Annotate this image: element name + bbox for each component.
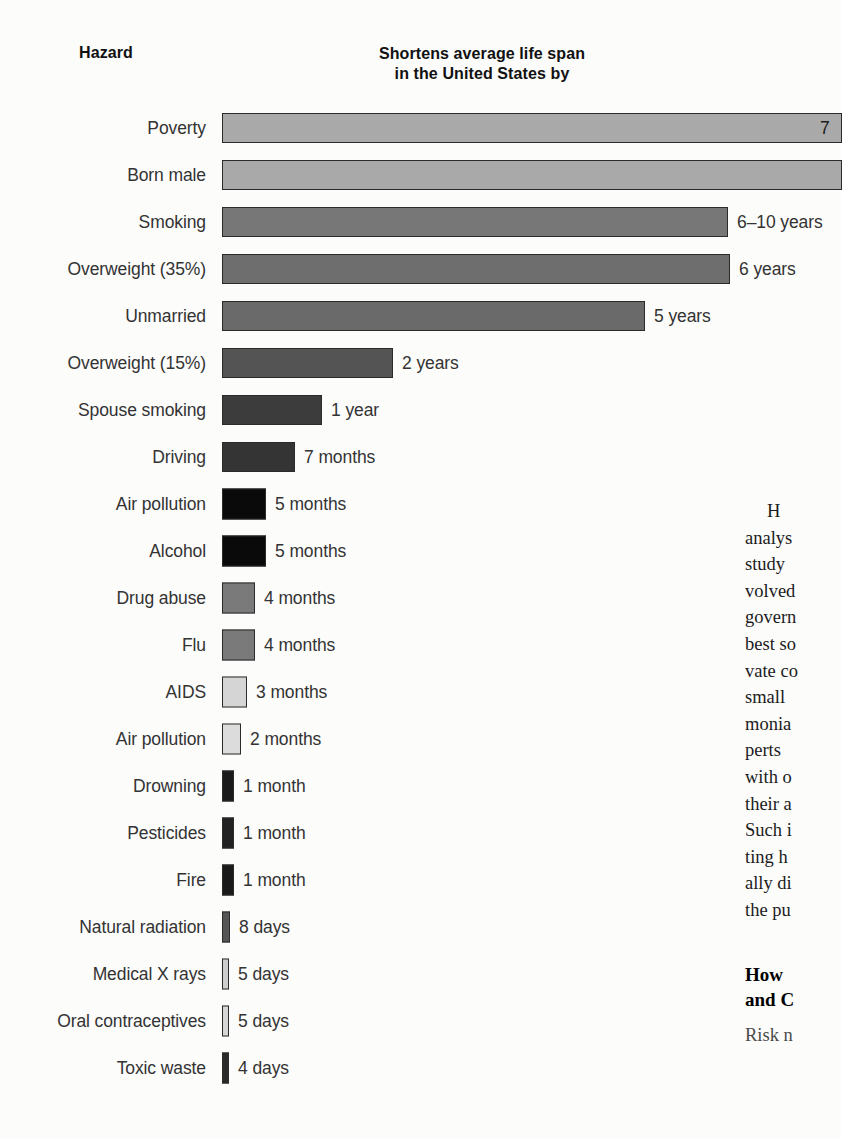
chart-row: Toxic waste4 days	[0, 1044, 841, 1091]
chart-row: AIDS3 months	[0, 668, 841, 715]
bar-value-label: 4 days	[238, 1057, 289, 1078]
hazard-bar	[222, 348, 393, 378]
chart-row: Air pollution2 months	[0, 715, 841, 762]
hazard-label: Drug abuse	[0, 587, 206, 608]
hazard-label: Natural radiation	[0, 916, 206, 937]
article-line: monia	[745, 711, 841, 738]
bar-value-label: 6–10 years	[737, 211, 823, 232]
bar-value-label: 2 months	[250, 728, 321, 749]
article-line: their a	[745, 791, 841, 818]
hazard-bar	[222, 582, 255, 613]
article-line: analys	[745, 525, 841, 552]
article-line: perts	[745, 737, 841, 764]
chart-row: Fire1 month	[0, 856, 841, 903]
hazard-bar	[222, 676, 247, 707]
hazard-label: Overweight (15%)	[0, 352, 206, 373]
bar-value-label: 5 days	[238, 1010, 289, 1031]
hazard-bar	[222, 864, 234, 895]
hazard-bar	[222, 723, 241, 754]
hazard-bar	[222, 442, 295, 472]
hazard-label: Smoking	[0, 211, 206, 232]
hazard-label: Drowning	[0, 775, 206, 796]
chart-row: Drowning1 month	[0, 762, 841, 809]
section-heading-line: and C	[745, 987, 841, 1012]
hazard-bar	[222, 113, 842, 143]
chart-row: Poverty7	[0, 104, 841, 151]
article-line: study	[745, 551, 841, 578]
hazard-label: Air pollution	[0, 493, 206, 514]
chart-row: Alcohol5 months	[0, 527, 841, 574]
bar-value-label: 4 months	[264, 587, 335, 608]
bar-value-label: 6 years	[739, 258, 796, 279]
article-line: with o	[745, 764, 841, 791]
hazard-label: Born male	[0, 164, 206, 185]
hazard-bar	[222, 1052, 229, 1083]
column-header-lifespan: Shortens average life span in the United…	[222, 44, 742, 84]
article-line: Such i	[745, 817, 841, 844]
bar-value-label: 1 month	[243, 775, 306, 796]
hazard-bar	[222, 1005, 229, 1036]
hazard-label: Poverty	[0, 117, 206, 138]
bar-value-label: 1 year	[331, 399, 379, 420]
article-text-column: Hanalysstudyvolvedgovernbest sovate cosm…	[745, 498, 841, 1048]
article-section-heading: Howand C	[745, 962, 841, 1012]
article-section-body: Risk n	[745, 1022, 841, 1049]
hazard-bar	[222, 629, 255, 660]
hazard-label: Toxic waste	[0, 1057, 206, 1078]
hazard-bar	[222, 207, 728, 237]
article-line: small	[745, 684, 841, 711]
bar-value-label: 3 months	[256, 681, 327, 702]
hazard-bar	[222, 535, 266, 566]
hazard-label: AIDS	[0, 681, 206, 702]
bar-value-label: 1 month	[243, 822, 306, 843]
chart-row: Medical X rays5 days	[0, 950, 841, 997]
chart-row: Born male	[0, 151, 841, 198]
hazard-label: Driving	[0, 446, 206, 467]
article-line: volved	[745, 578, 841, 605]
bar-value-label: 4 months	[264, 634, 335, 655]
hazard-label: Spouse smoking	[0, 399, 206, 420]
bar-value-label: 5 years	[654, 305, 711, 326]
hazard-bar	[222, 958, 229, 989]
chart-row: Overweight (35%)6 years	[0, 245, 841, 292]
article-line: govern	[745, 604, 841, 631]
hazard-label: Unmarried	[0, 305, 206, 326]
hazard-label: Medical X rays	[0, 963, 206, 984]
hazard-bar	[222, 395, 322, 425]
hazard-bar	[222, 301, 645, 331]
chart-row: Driving7 months	[0, 433, 841, 480]
bar-value-label: 5 months	[275, 493, 346, 514]
chart-row: Flu4 months	[0, 621, 841, 668]
chart-row: Natural radiation8 days	[0, 903, 841, 950]
article-paragraph: Hanalysstudyvolvedgovernbest sovate cosm…	[745, 498, 841, 924]
bar-value-label: 5 days	[238, 963, 289, 984]
article-line: the pu	[745, 897, 841, 924]
column-header-lifespan-line2: in the United States by	[222, 64, 742, 84]
chart-row: Spouse smoking1 year	[0, 386, 841, 433]
chart-row: Overweight (15%)2 years	[0, 339, 841, 386]
bar-value-label: 7	[820, 117, 830, 138]
bar-value-label: 7 months	[304, 446, 375, 467]
hazard-bar	[222, 254, 730, 284]
article-line: ting h	[745, 844, 841, 871]
hazard-bar	[222, 160, 842, 190]
hazard-label: Overweight (35%)	[0, 258, 206, 279]
bar-value-label: 8 days	[239, 916, 290, 937]
hazard-label: Oral contraceptives	[0, 1010, 206, 1031]
bar-value-label: 5 months	[275, 540, 346, 561]
article-line: vate co	[745, 658, 841, 685]
article-line: ally di	[745, 870, 841, 897]
hazard-label: Fire	[0, 869, 206, 890]
chart-row: Unmarried5 years	[0, 292, 841, 339]
column-header-hazard: Hazard	[0, 44, 212, 62]
chart-row: Oral contraceptives5 days	[0, 997, 841, 1044]
hazard-bar	[222, 488, 266, 519]
article-line: best so	[745, 631, 841, 658]
column-header-lifespan-line1: Shortens average life span	[222, 44, 742, 64]
bar-value-label: 2 years	[402, 352, 459, 373]
section-body-line: Risk n	[745, 1022, 841, 1049]
hazard-label: Alcohol	[0, 540, 206, 561]
hazard-bar	[222, 817, 234, 848]
hazard-bar	[222, 911, 230, 942]
hazard-bar	[222, 770, 234, 801]
